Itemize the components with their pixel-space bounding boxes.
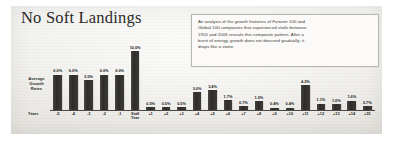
bar-+2: 0.5% [162,36,171,110]
bar-rect [255,101,264,110]
bar-+13: 1.0% [332,36,341,110]
x-axis-label--4: -4 [65,112,80,116]
x-axis-label-+15: +15 [360,112,375,116]
bar-rect [347,101,356,110]
x-axis-label-+5: +5 [205,112,220,116]
x-axis-label-+9: +9 [267,112,282,116]
bar-+4: 3.0% [193,36,202,110]
bar--4: 6.0% [69,36,78,110]
bar--1: 6.0% [115,36,124,110]
x-axis-label-stall-year: StallYear [127,112,142,120]
bar-value-label: 1.5% [255,96,264,101]
bar-value-label: 0.7% [363,101,372,106]
bar-value-label: 0.5% [177,102,186,107]
bar-value-label: 1.6% [347,95,356,100]
x-axis-label-+3: +3 [174,112,189,116]
x-axis-label-+8: +8 [251,112,266,116]
bar--2: 6.0% [100,36,109,110]
bar-+10: 0.4% [286,36,295,110]
bar-+11: 4.2% [301,36,310,110]
x-axis-label-+14: +14 [344,112,359,116]
bar-+5: 3.4% [208,36,217,110]
bar-value-label: 0.4% [286,102,295,107]
bar--5: 6.0% [53,36,62,110]
bar-value-label: 1.0% [332,99,341,104]
bar-+14: 1.6% [347,36,356,110]
bar-value-label: 10.0% [130,46,141,51]
bar-value-label: 0.7% [239,101,248,106]
figure-container: No Soft Landings An analysis of the grow… [0,0,393,145]
bar-rect [53,75,62,110]
bar-value-label: 6.0% [115,69,124,74]
bar-value-label: 0.5% [162,102,171,107]
x-axis-label-part: Year [131,115,139,120]
bar-+6: 1.7% [224,36,233,110]
x-axis-label-+12: +12 [313,112,328,116]
x-axis-label-+7: +7 [236,112,251,116]
bar-rect [100,75,109,110]
bar-plot-area: 6.0%6.0%5.0%6.0%6.0%10.0%0.5%0.5%0.5%3.0… [50,36,375,110]
fortune-italic: Fortune [272,19,287,24]
bar-rect [208,90,217,110]
x-axis-label-+1: +1 [143,112,158,116]
x-axis-label-+11: +11 [298,112,313,116]
bar-+8: 1.5% [255,36,264,110]
bar-value-label: 6.0% [69,69,78,74]
bar--3: 5.0% [84,36,93,110]
bar-stall-year: 10.0% [131,36,140,110]
x-axis-label-+4: +4 [189,112,204,116]
bar-+15: 0.7% [363,36,372,110]
x-axis-label--2: -2 [96,112,111,116]
bar-rect [224,100,233,110]
bar-rect [115,75,124,110]
bar-rect [84,80,93,110]
x-axis-label--5: -5 [50,112,65,116]
x-axis-label--3: -3 [81,112,96,116]
bar-+7: 0.7% [239,36,248,110]
bar-+12: 1.1% [317,36,326,110]
bar-value-label: 3.0% [193,87,202,92]
bar-value-label: 6.0% [53,69,62,74]
bar-value-label: 3.4% [208,85,217,90]
chart-title: No Soft Landings [21,9,142,27]
bar-value-label: 0.4% [270,102,279,107]
bar-value-label: 1.7% [224,95,233,100]
bar-+3: 0.5% [177,36,186,110]
bar-value-label: 6.0% [100,69,109,74]
bar-rect [131,51,140,110]
x-axis-label-+13: +13 [329,112,344,116]
x-axis-label--1: -1 [112,112,127,116]
bar-rect [69,75,78,110]
bar-value-label: 1.1% [316,98,325,103]
bar-value-label: 5.0% [84,75,93,80]
x-axis-label-+6: +6 [220,112,235,116]
y-axis-caption: Average Growth Rates [24,76,49,91]
x-axis-label-+10: +10 [282,112,297,116]
bar-rect [193,92,202,110]
x-axis-label-row: -5-4-3-2-1StallYear+1+2+3+4+5+6+7+8+9+10… [50,112,375,124]
bar-value-label: 4.2% [301,80,310,85]
x-axis-label-+2: +2 [158,112,173,116]
bar-+9: 0.4% [270,36,279,110]
bar-rect [301,85,310,110]
bar-+1: 0.5% [146,36,155,110]
bar-value-label: 0.5% [146,102,155,107]
years-caption: Years [28,112,38,116]
